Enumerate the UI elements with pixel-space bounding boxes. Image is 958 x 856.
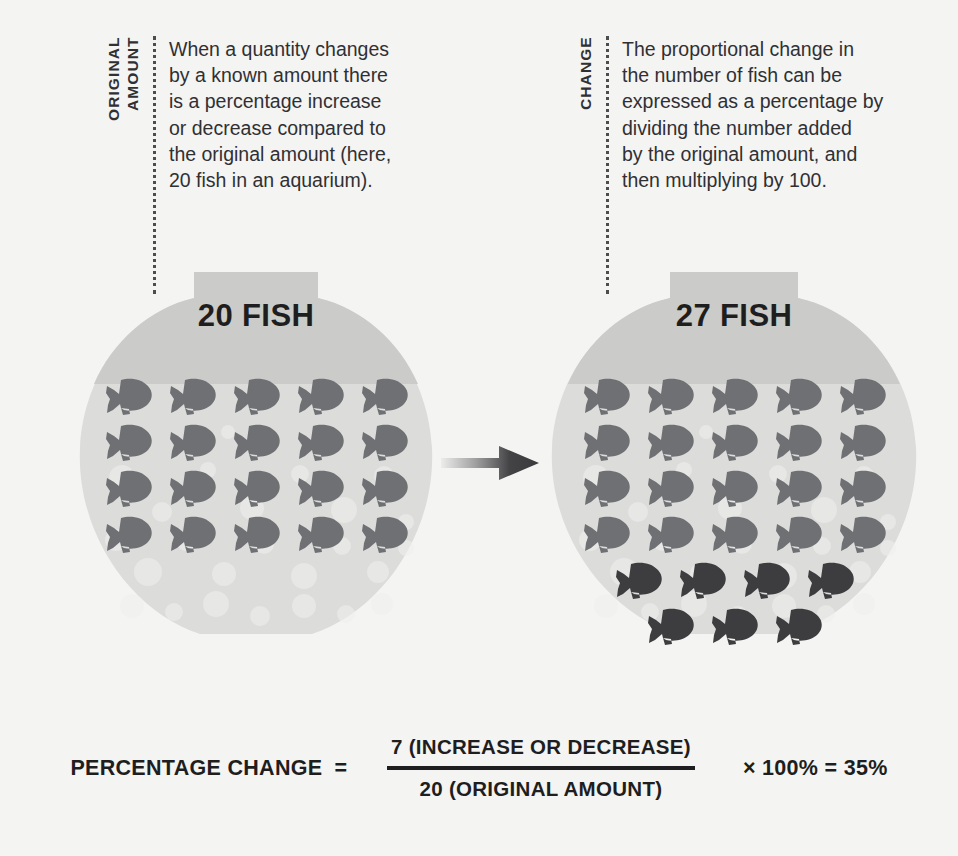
fish-slot [352, 376, 416, 416]
fish-row [638, 606, 830, 646]
formula-numerator: 7 (INCREASE OR DECREASE) [387, 735, 695, 759]
fish-slot [574, 468, 638, 508]
fishbowl-original: 20 FISH [76, 272, 436, 662]
fish-slot [766, 468, 830, 508]
formula-denominator: 20 (ORIGINAL AMOUNT) [415, 777, 666, 801]
fish-slot [96, 376, 160, 416]
fish-slot [638, 514, 702, 554]
fish-added-icon [803, 560, 857, 600]
fish-original-icon [771, 422, 825, 462]
fish-original-icon [835, 376, 889, 416]
fish-row [96, 376, 416, 416]
fish-row [96, 468, 416, 508]
fish-original-icon [229, 514, 283, 554]
fish-original-icon [579, 376, 633, 416]
fish-slot [160, 468, 224, 508]
fish-added-icon [643, 606, 697, 646]
fishbowl-new: 27 FISH [548, 272, 920, 662]
fish-added-icon [707, 606, 761, 646]
fish-slot [96, 468, 160, 508]
fish-slot [224, 514, 288, 554]
fish-original-icon [707, 376, 761, 416]
fish-original-icon [771, 514, 825, 554]
fish-slot [352, 514, 416, 554]
fish-original-icon [101, 376, 155, 416]
fish-slot [224, 468, 288, 508]
fish-slot [574, 376, 638, 416]
fish-slot [96, 514, 160, 554]
annotation-right-vertical-label: CHANGE [576, 36, 595, 122]
fish-slot [830, 422, 894, 462]
fish-original-icon [165, 468, 219, 508]
fish-slot [830, 514, 894, 554]
fish-row [574, 376, 894, 416]
fish-slot [288, 514, 352, 554]
fish-slot [638, 468, 702, 508]
fish-original-icon [165, 422, 219, 462]
fish-slot [224, 376, 288, 416]
fish-row [574, 514, 894, 554]
annotation-right-text: The proportional change in the number of… [622, 36, 883, 193]
fish-slot [574, 422, 638, 462]
fish-original-icon [229, 422, 283, 462]
fish-slot [670, 560, 734, 600]
fish-row [574, 468, 894, 508]
annotation-original-amount: ORIGINAL AMOUNT When a quantity changes … [104, 36, 391, 294]
fish-original-icon [771, 468, 825, 508]
fish-row [574, 422, 894, 462]
fish-original-icon [357, 468, 411, 508]
fish-row [606, 560, 862, 600]
fish-original-icon [101, 468, 155, 508]
fish-original-icon [357, 514, 411, 554]
arrow-right-icon [441, 443, 541, 483]
fish-original-icon [293, 376, 347, 416]
fish-slot [574, 514, 638, 554]
fish-original-icon [293, 514, 347, 554]
fish-original-icon [101, 422, 155, 462]
fish-slot [734, 560, 798, 600]
fish-original-icon [579, 468, 633, 508]
fish-original-icon [835, 468, 889, 508]
fish-original-icon [707, 422, 761, 462]
fish-slot [702, 376, 766, 416]
fish-slot [702, 606, 766, 646]
fish-added-icon [771, 606, 825, 646]
fish-slot [352, 422, 416, 462]
fish-slot [830, 376, 894, 416]
fish-original-icon [771, 376, 825, 416]
fish-slot [160, 422, 224, 462]
infographic-canvas: ORIGINAL AMOUNT When a quantity changes … [0, 0, 958, 856]
fish-slot [702, 514, 766, 554]
fish-original-icon [357, 376, 411, 416]
fish-slot [288, 468, 352, 508]
fish-original-icon [643, 376, 697, 416]
fish-original-icon [707, 468, 761, 508]
fish-slot [160, 376, 224, 416]
fish-original-icon [165, 514, 219, 554]
formula-fraction-bar [387, 766, 695, 770]
fish-slot [96, 422, 160, 462]
fish-original-icon [579, 422, 633, 462]
fish-slot [798, 560, 862, 600]
annotation-change: CHANGE The proportional change in the nu… [576, 36, 883, 294]
fish-original-icon [707, 514, 761, 554]
fish-slot [766, 606, 830, 646]
fish-slot [766, 376, 830, 416]
fish-original-icon [643, 514, 697, 554]
percentage-change-formula: PERCENTAGE CHANGE = 7 (INCREASE OR DECRE… [0, 714, 958, 822]
formula-fraction: 7 (INCREASE OR DECREASE) 20 (ORIGINAL AM… [387, 735, 695, 801]
fish-original-icon [835, 422, 889, 462]
annotation-left-vertical-label: ORIGINAL AMOUNT [104, 36, 142, 164]
fish-original-icon [165, 376, 219, 416]
fish-original-icon [229, 376, 283, 416]
fish-added-icon [739, 560, 793, 600]
fish-original-icon [293, 422, 347, 462]
fish-slot [352, 468, 416, 508]
fish-row [96, 514, 416, 554]
fish-slot [702, 468, 766, 508]
fish-added-icon [675, 560, 729, 600]
fish-slot [160, 514, 224, 554]
fish-original-icon [643, 468, 697, 508]
leader-line-right [606, 36, 609, 294]
fish-original-icon [643, 422, 697, 462]
